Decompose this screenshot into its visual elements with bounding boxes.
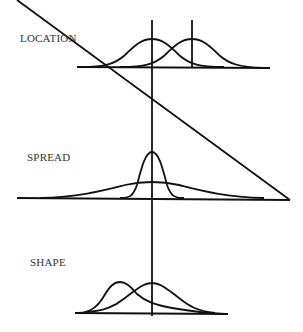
shape-symmetric-curve [85,283,215,313]
diagram-canvas [0,0,303,332]
distribution-diagram: LOCATION SPREAD SHAPE [0,0,303,332]
shape-label: SHAPE [30,256,66,268]
spread-baseline-line [17,198,290,200]
spread-label: SPREAD [27,151,70,163]
location-baseline [77,67,270,68]
spread-baseline [17,0,290,200]
location-label: LOCATION [20,32,77,44]
